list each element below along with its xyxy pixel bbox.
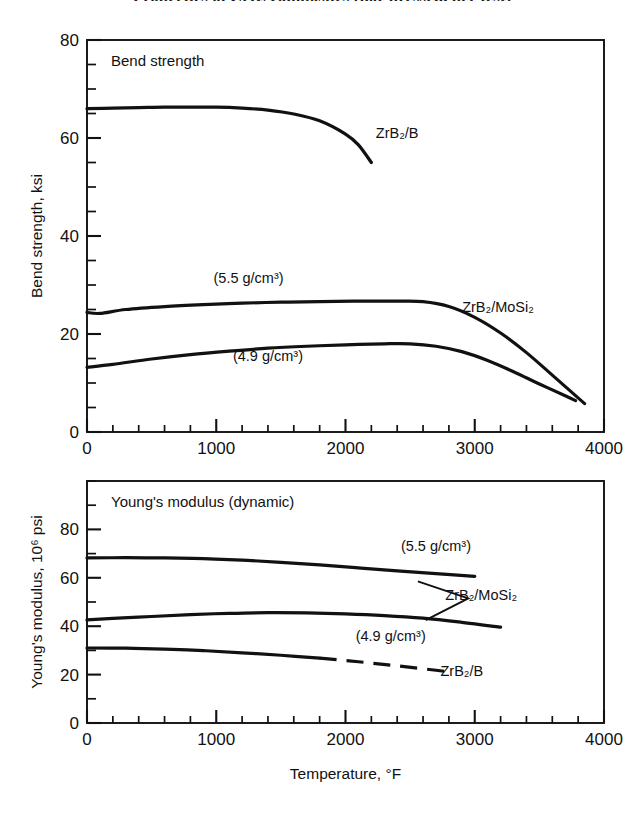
series-label-ZrB2/MoSi2 5.5: (5.5 g/cm³) [401, 538, 471, 554]
y-axis-title: Young's modulus, 10⁶ psi [28, 515, 45, 688]
series-label-ZrB2/MoSi2 5.5: (5.5 g/cm³) [214, 270, 284, 286]
y-tick-label: 0 [70, 714, 79, 733]
series-line-ZrB2/MoSi2 5.5 [87, 558, 475, 577]
plot-frame [87, 481, 604, 723]
panel-top: 01000200030004000020406080Bend strengthB… [28, 31, 623, 458]
series-label-ZrB2/MoSi2 4.9: (4.9 g/cm³) [356, 628, 426, 644]
x-tick-label: 3000 [456, 439, 494, 458]
y-tick-label: 80 [60, 31, 79, 50]
series-line-ZrB2/B [87, 648, 320, 658]
x-tick-label: 2000 [327, 439, 365, 458]
series-line-ZrB2/MoSi2 4.9 [87, 344, 576, 401]
annotation-label: ZrB₂/MoSi₂ [462, 299, 534, 315]
y-tick-label: 80 [60, 520, 79, 539]
series-line-ZrB2/MoSi2 4.9 [87, 613, 501, 628]
series-line-ZrB2/B [87, 107, 371, 162]
panel-bottom: 01000200030004000020406080Young's modulu… [28, 481, 623, 749]
x-tick-label: 4000 [585, 439, 623, 458]
x-tick-label: 2000 [327, 730, 365, 749]
clipped-figure-title: Properties of ZrB₂ composites (hot-press… [0, 0, 644, 1]
series-label-ZrB2/MoSi2 4.9: (4.9 g/cm³) [233, 348, 303, 364]
x-axis-title: Temperature, °F [290, 765, 401, 782]
x-tick-label: 3000 [456, 730, 494, 749]
y-tick-label: 60 [60, 129, 79, 148]
panel-title: Bend strength [111, 52, 204, 69]
series-line-ZrB2/MoSi2 5.5 [87, 301, 585, 403]
x-tick-label: 4000 [585, 730, 623, 749]
y-tick-label: 40 [60, 227, 79, 246]
x-tick-label: 0 [82, 439, 91, 458]
y-tick-label: 20 [60, 666, 79, 685]
y-tick-label: 40 [60, 617, 79, 636]
x-tick-label: 1000 [197, 439, 235, 458]
y-tick-label: 0 [70, 423, 79, 442]
series-label-ZrB2/B: ZrB₂/B [440, 663, 483, 679]
y-tick-label: 20 [60, 325, 79, 344]
series-line-dashed-ZrB2/B [320, 658, 452, 672]
figure-container: Properties of ZrB₂ composites (hot-press… [0, 0, 644, 822]
y-tick-label: 60 [60, 569, 79, 588]
y-axis-title: Bend strength, ksi [28, 174, 45, 298]
x-tick-label: 1000 [197, 730, 235, 749]
series-label-ZrB2/B: ZrB₂/B [376, 125, 419, 141]
plot-frame [87, 40, 604, 432]
chart-canvas: 01000200030004000020406080Bend strengthB… [0, 0, 644, 822]
x-tick-label: 0 [82, 730, 91, 749]
panel-title: Young's modulus (dynamic) [111, 493, 294, 510]
